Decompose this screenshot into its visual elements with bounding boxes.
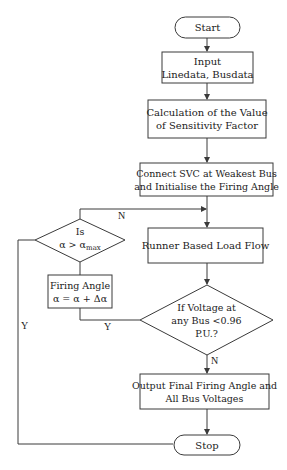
firing-line1: Firing Angle bbox=[50, 279, 110, 292]
stop-text: Stop bbox=[195, 439, 218, 452]
alpha-line2-sub: max bbox=[86, 244, 101, 252]
alpha-decision-label: Is α > αmax bbox=[35, 226, 125, 254]
runner-text: Runner Based Load Flow bbox=[142, 239, 270, 252]
edge-label-alpha-yes: Y bbox=[21, 320, 28, 331]
calc-line1: Calculation of the Value bbox=[146, 106, 267, 119]
output-label: Output Final Firing Angle and All Bus Vo… bbox=[140, 374, 269, 409]
voltage-line3: P.U.? bbox=[195, 327, 218, 340]
edge-label-voltage-yes: Y bbox=[104, 321, 111, 332]
firing-angle-label: Firing Angle α = α + Δα bbox=[48, 275, 112, 308]
runner-label: Runner Based Load Flow bbox=[148, 228, 263, 263]
alpha-line2: α > αmax bbox=[59, 238, 101, 255]
edge-label-alpha-no: N bbox=[118, 210, 125, 221]
input-label: Input Linedata, Busdata bbox=[162, 52, 253, 83]
voltage-line2: any Bus <0.96 bbox=[171, 314, 241, 327]
line-voltage-yes bbox=[80, 308, 140, 320]
voltage-line1: If Voltage at bbox=[177, 301, 236, 314]
connect-label: Connect SVC at Weakest Bus and Initialis… bbox=[140, 163, 273, 196]
connect-line1: Connect SVC at Weakest Bus bbox=[136, 167, 277, 180]
line-alpha-yes-stop bbox=[18, 240, 173, 444]
firing-line2: α = α + Δα bbox=[53, 292, 107, 305]
alpha-line2-main: α > α bbox=[59, 239, 86, 250]
calc-label: Calculation of the Value of Sensitivity … bbox=[148, 100, 266, 138]
calc-line2: of Sensitivity Factor bbox=[156, 119, 258, 132]
input-line1: Input bbox=[194, 55, 221, 68]
connect-line2: and Initialise the Firing Angle bbox=[134, 180, 279, 193]
start-text: Start bbox=[195, 21, 221, 34]
stop-label: Stop bbox=[174, 435, 240, 455]
input-line2: Linedata, Busdata bbox=[161, 68, 253, 81]
output-line1: Output Final Firing Angle and bbox=[132, 379, 277, 392]
alpha-line1: Is bbox=[76, 225, 85, 238]
start-label: Start bbox=[175, 17, 240, 38]
arrow-alpha-no-merge bbox=[80, 209, 206, 219]
output-line2: All Bus Voltages bbox=[166, 392, 244, 405]
edge-label-voltage-no: N bbox=[211, 355, 218, 366]
voltage-decision-label: If Voltage at any Bus <0.96 P.U.? bbox=[140, 298, 273, 342]
